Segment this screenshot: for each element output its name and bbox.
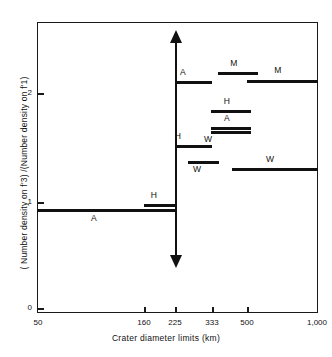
segment-a-baseline <box>37 209 176 212</box>
segment-h-160 <box>144 204 176 207</box>
x-axis-title: Crater diameter limits (km) <box>0 333 332 343</box>
segment-h-160-label: H <box>148 190 160 200</box>
segment-a-mid-label: A <box>221 113 233 123</box>
x-tick-label-225: 225 <box>164 318 186 327</box>
segment-a-mid <box>211 127 251 130</box>
segment-w-right <box>232 168 318 171</box>
segment-h-225 <box>175 145 212 148</box>
y-axis-title: ( Number density on f'3) /(Number densit… <box>19 53 29 293</box>
segment-w-left-label: W <box>191 164 203 174</box>
x-tick-mark-225 <box>175 307 177 313</box>
y-tick-mark-1 <box>37 202 44 204</box>
segment-h-225-label: H <box>172 131 184 141</box>
segment-m-left-label: M <box>228 58 240 68</box>
segment-a-225 <box>175 81 212 84</box>
segment-h-333 <box>211 110 251 113</box>
y-tick-mark-0 <box>37 308 44 310</box>
x-tick-label-160: 160 <box>133 318 155 327</box>
segment-a-225-label: A <box>177 67 189 77</box>
x-tick-label-333: 333 <box>201 318 223 327</box>
x-tick-mark-333 <box>212 307 214 313</box>
segment-m-right-label: M <box>272 65 284 75</box>
x-tick-label-50: 50 <box>27 318 49 327</box>
y-tick-mark-2 <box>37 93 44 95</box>
x-tick-mark-160 <box>144 307 146 313</box>
x-tick-label-1000: 1,000 <box>303 318 331 327</box>
segment-w-right-label: W <box>264 154 276 164</box>
crater-density-chart: 0 1 2 50 160 225 333 500 1,000 A H H W W <box>0 0 332 357</box>
segment-a-baseline-label: A <box>88 213 100 223</box>
segment-w-mid-label: W <box>202 134 214 144</box>
arrow-head-down-icon <box>170 255 182 268</box>
segment-h-333-label: H <box>221 96 233 106</box>
x-tick-label-500: 500 <box>236 318 258 327</box>
x-tick-mark-500 <box>247 307 249 313</box>
segment-w-mid <box>211 131 251 134</box>
segment-m-right <box>247 80 318 83</box>
segment-m-left <box>218 72 258 75</box>
y-tick-label-0: 0 <box>18 303 32 312</box>
